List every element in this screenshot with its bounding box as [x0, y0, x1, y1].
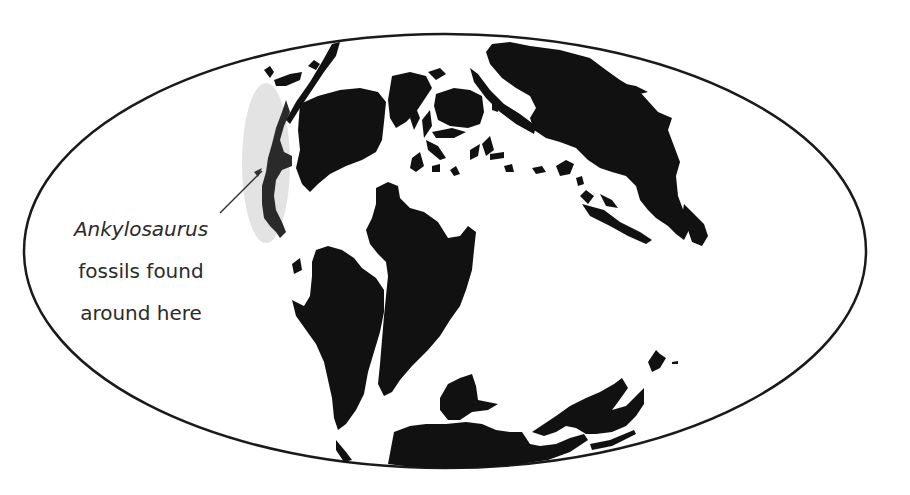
- world-map: [0, 0, 910, 495]
- annotation-line-3: around here: [56, 296, 226, 330]
- annotation-species-name: Ankylosaurus: [56, 212, 226, 246]
- annotation-line-2: fossils found: [56, 254, 226, 288]
